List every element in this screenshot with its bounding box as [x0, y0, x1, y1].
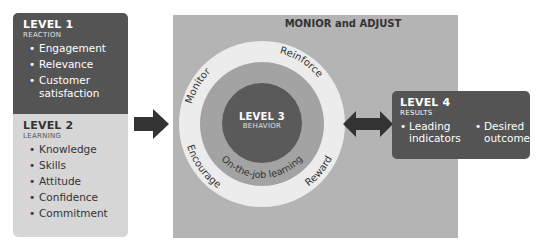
- level-3-title: LEVEL 3: [222, 111, 302, 122]
- ring-label-reward: Reward: [303, 154, 334, 188]
- level-4-box: LEVEL 4 RESULTS Leading indicators Desir…: [392, 91, 530, 159]
- level-3-subtitle: BEHAVIOR: [222, 122, 302, 130]
- list-item: Leading indicators: [400, 120, 471, 144]
- svg-text:Reinforce: Reinforce: [279, 44, 325, 79]
- level-4-title: LEVEL 4: [400, 97, 530, 109]
- svg-text:Monitor: Monitor: [183, 65, 213, 105]
- level-4-subtitle: RESULTS: [400, 109, 530, 117]
- ring-label-on-the-job: On-the-job learning: [220, 153, 305, 180]
- svg-text:Reward: Reward: [303, 154, 334, 188]
- ring-label-reinforce: Reinforce: [279, 44, 325, 79]
- ring-label-encourage: Encourage: [185, 143, 223, 190]
- list-item: Desired outcomes: [475, 120, 541, 144]
- level-4-list-b: Desired outcomes: [475, 120, 541, 144]
- ring-label-monitor: Monitor: [183, 65, 213, 105]
- level-4-list-a: Leading indicators: [400, 120, 471, 144]
- level-3-label: LEVEL 3 BEHAVIOR: [222, 111, 302, 130]
- double-arrow-icon: [343, 111, 393, 137]
- svg-text:On-the-job learning: On-the-job learning: [220, 153, 305, 180]
- svg-text:Encourage: Encourage: [185, 143, 223, 190]
